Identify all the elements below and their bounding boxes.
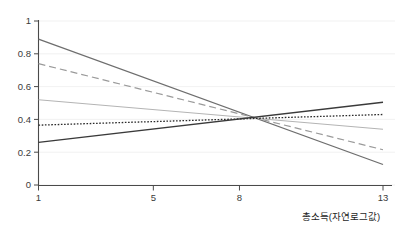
- y-tick-labels: 00.20.40.60.81: [18, 15, 31, 190]
- series-line-series-3: [39, 100, 384, 130]
- x-tick-label: 13: [378, 192, 389, 203]
- x-tick-label: 5: [151, 192, 156, 203]
- gridlines: [39, 21, 396, 185]
- series-line-series-4: [39, 114, 384, 125]
- y-tick-label: 0.4: [18, 114, 31, 125]
- x-tick-labels: 15813: [36, 192, 388, 203]
- y-tick-label: 1: [26, 15, 31, 26]
- series-line-series-1: [39, 39, 384, 164]
- y-tick-label: 0: [26, 179, 31, 190]
- chart-figure: 00.20.40.60.81 15813 총소득(자연로그값): [0, 0, 399, 234]
- x-tick-label: 1: [36, 192, 41, 203]
- y-tick-marks: [34, 21, 39, 185]
- x-tick-marks: [39, 186, 384, 191]
- chart-canvas: 00.20.40.60.81 15813 총소득(자연로그값): [0, 0, 399, 234]
- x-tick-label: 8: [237, 192, 242, 203]
- y-tick-label: 0.8: [18, 48, 31, 59]
- y-tick-label: 0.2: [18, 147, 31, 158]
- x-axis-title: 총소득(자연로그값): [302, 211, 380, 222]
- y-tick-label: 0.6: [18, 81, 31, 92]
- series-lines: [39, 39, 384, 164]
